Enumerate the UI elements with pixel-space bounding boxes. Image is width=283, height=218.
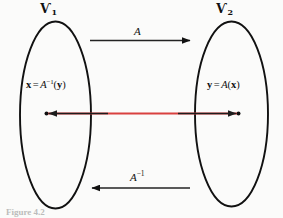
caption-strip: Figure 4.2 — [0, 209, 283, 218]
left-space-symbol: Ѵ — [40, 2, 51, 16]
right-space-subscript: 2 — [227, 7, 233, 17]
figure-caption: Figure 4.2 — [6, 209, 45, 217]
inverse-map-symbol: A — [130, 171, 137, 183]
right-space-symbol: Ѵ — [216, 2, 227, 16]
right-equation-equals: = — [212, 79, 221, 90]
right-equation-close-paren: ) — [236, 79, 240, 90]
diagram-canvas — [0, 0, 283, 218]
left-space-label: Ѵ1 — [40, 3, 57, 16]
left-equation-close-paren: ) — [62, 79, 66, 90]
right-space-label: Ѵ2 — [216, 3, 233, 16]
vector-y-point — [237, 112, 241, 116]
forward-map-label: A — [134, 24, 141, 37]
vector-x-point — [45, 112, 49, 116]
figure-container: Ѵ1 Ѵ2 A A−1 x=A−1(y) y=A(x) Figure 4.2 — [0, 0, 283, 218]
left-equation-equals: = — [31, 79, 40, 90]
forward-map-symbol: A — [134, 25, 141, 37]
right-equation: y=A(x) — [207, 79, 240, 91]
left-space-ellipse — [20, 22, 91, 209]
left-equation: x=A−1(y) — [26, 79, 66, 91]
inverse-map-superscript: −1 — [137, 169, 144, 178]
inverse-map-label: A−1 — [130, 170, 144, 183]
left-space-subscript: 1 — [51, 7, 57, 17]
